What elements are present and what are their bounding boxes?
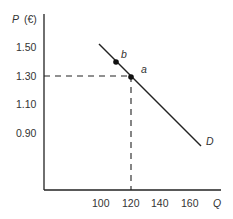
y-tick-label: 1.30 [16, 70, 37, 82]
point-a [128, 74, 134, 80]
x-tick-label: 140 [151, 197, 169, 209]
y-axis-title-unit: (€) [24, 13, 37, 25]
point-a-label: a [141, 63, 147, 75]
y-axis-title: P (€) [12, 13, 37, 25]
point-b-label: b [121, 48, 127, 60]
demand-chart: b a D P (€) 1.50 1.30 1.10 0.90 100 120 … [0, 0, 233, 219]
demand-curve [99, 44, 201, 146]
y-axis-title-main: P [12, 13, 19, 25]
x-axis-title: Q [213, 197, 221, 209]
y-tick-label: 1.10 [16, 98, 37, 110]
x-tick-label: 100 [92, 197, 110, 209]
point-b [113, 59, 119, 65]
curve-label-d: D [206, 135, 214, 147]
x-tick-label: 160 [181, 197, 199, 209]
y-tick-label: 1.50 [16, 41, 37, 53]
y-tick-label: 0.90 [16, 127, 37, 139]
x-tick-label: 120 [122, 197, 140, 209]
